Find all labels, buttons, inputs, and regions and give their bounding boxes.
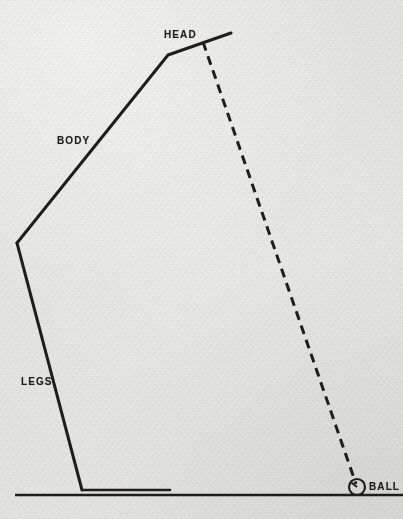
- ball-marker: [349, 479, 365, 495]
- label-ball: BALL: [369, 481, 400, 492]
- label-body: BODY: [57, 135, 90, 146]
- diagram-page: HEAD BODY LEGS BALL: [0, 0, 403, 519]
- label-head: HEAD: [164, 29, 197, 40]
- swing-plane-dashed-line: [203, 42, 356, 484]
- legs-line: [17, 243, 82, 490]
- body-line: [17, 33, 231, 243]
- label-legs: LEGS: [21, 376, 53, 387]
- stick-figure-diagram: [0, 0, 403, 519]
